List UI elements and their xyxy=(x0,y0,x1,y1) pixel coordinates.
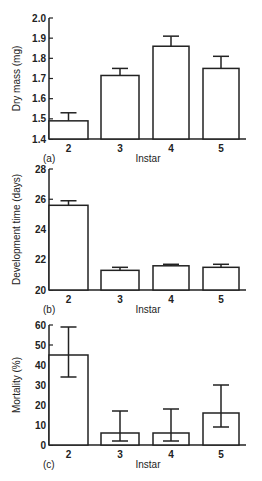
panel-label: (a) xyxy=(43,153,55,164)
y-tick-label: 26 xyxy=(35,194,47,205)
y-tick-label: 1.5 xyxy=(32,113,46,124)
bar xyxy=(49,121,88,139)
panel-label: (c) xyxy=(43,459,55,470)
y-tick-label: 10 xyxy=(35,420,47,431)
y-tick-label: 1.6 xyxy=(32,93,46,104)
panel-label: (b) xyxy=(43,304,55,315)
y-tick-label: 24 xyxy=(35,224,47,235)
y-tick-label: 1.4 xyxy=(32,134,46,145)
x-tick-label: 5 xyxy=(218,449,224,460)
y-tick-label: 50 xyxy=(35,340,47,351)
y-tick-label: 20 xyxy=(35,285,47,296)
x-tick-label: 2 xyxy=(66,294,72,305)
y-tick-label: 2.0 xyxy=(32,13,46,24)
figure: 1.41.51.61.71.81.92.02345(a)InstarDry ma… xyxy=(0,0,262,481)
x-tick-label: 4 xyxy=(168,143,174,154)
bar xyxy=(203,68,239,139)
y-tick-label: 30 xyxy=(35,380,47,391)
y-tick-label: 1.8 xyxy=(32,53,46,64)
chart-panel-1: 1.41.51.61.71.81.92.02345(a)InstarDry ma… xyxy=(11,13,246,165)
x-axis-title: Instar xyxy=(135,153,161,164)
x-tick-label: 3 xyxy=(117,294,123,305)
bar xyxy=(203,267,239,290)
bar xyxy=(153,266,189,290)
y-axis-title: Dry mass (mg) xyxy=(11,46,22,112)
y-tick-label: 0 xyxy=(40,440,46,451)
chart-panel-2: 20222426282345(b)InstarDevelopment time … xyxy=(11,164,246,316)
y-axis-title: Mortality (%) xyxy=(11,357,22,413)
bar xyxy=(49,205,88,290)
y-tick-label: 40 xyxy=(35,360,47,371)
bar xyxy=(153,46,189,139)
chart-panel-3: 01020304050602345(c)InstarMortality (%) xyxy=(11,320,246,471)
x-tick-label: 2 xyxy=(66,143,72,154)
x-tick-label: 3 xyxy=(117,449,123,460)
x-tick-label: 3 xyxy=(117,143,123,154)
x-tick-label: 2 xyxy=(66,449,72,460)
y-tick-label: 1.7 xyxy=(32,73,46,84)
x-tick-label: 4 xyxy=(168,294,174,305)
x-tick-label: 4 xyxy=(168,449,174,460)
x-axis-title: Instar xyxy=(135,459,161,470)
y-tick-label: 22 xyxy=(35,254,47,265)
x-tick-label: 5 xyxy=(218,143,224,154)
y-tick-label: 1.9 xyxy=(32,33,46,44)
bar xyxy=(101,270,139,290)
x-axis-title: Instar xyxy=(135,304,161,315)
y-axis-title: Development time (days) xyxy=(11,174,22,285)
y-tick-label: 20 xyxy=(35,400,47,411)
x-tick-label: 5 xyxy=(218,294,224,305)
y-tick-label: 60 xyxy=(35,320,47,331)
bar xyxy=(101,75,139,139)
y-tick-label: 28 xyxy=(35,164,47,175)
